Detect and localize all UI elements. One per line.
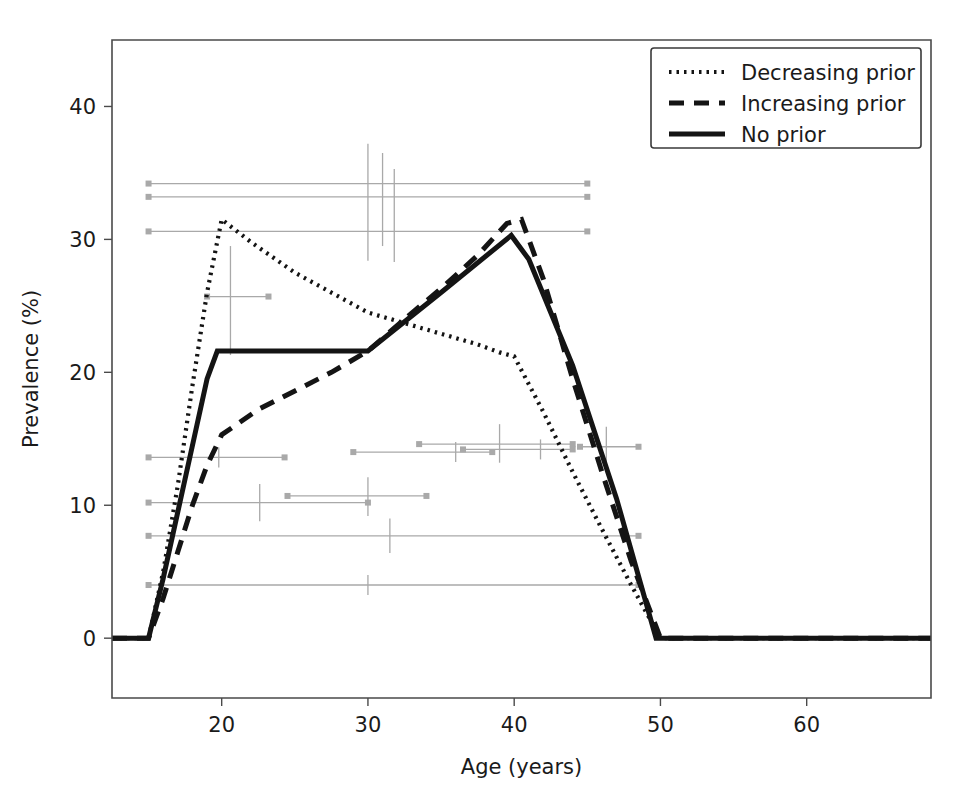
y-axis-label: Prevalence (%) [19, 290, 43, 448]
legend-label: Decreasing prior [741, 61, 915, 85]
marker-endpoint-cap [577, 444, 583, 450]
y-tick-label: 0 [83, 627, 96, 651]
x-tick-label: 40 [501, 713, 528, 737]
marker-endpoint-cap [265, 294, 271, 300]
marker-endpoint-cap [146, 533, 152, 539]
x-axis-label: Age (years) [461, 755, 582, 779]
marker-endpoint-cap [282, 454, 288, 460]
marker-endpoint-cap [570, 446, 576, 452]
y-tick-label: 20 [69, 361, 96, 385]
marker-endpoint-cap [416, 441, 422, 447]
x-tick-label: 60 [793, 713, 820, 737]
marker-endpoint-cap [146, 500, 152, 506]
marker-endpoint-cap [146, 181, 152, 187]
marker-endpoint-cap [146, 582, 152, 588]
y-tick-label: 30 [69, 228, 96, 252]
x-tick-label: 20 [208, 713, 235, 737]
marker-endpoint-cap [146, 454, 152, 460]
marker-endpoint-cap [285, 493, 291, 499]
marker-endpoint-cap [146, 194, 152, 200]
marker-endpoint-cap [584, 228, 590, 234]
marker-endpoint-cap [570, 441, 576, 447]
marker-endpoint-cap [636, 533, 642, 539]
marker-endpoint-cap [584, 194, 590, 200]
marker-endpoint-cap [584, 181, 590, 187]
prevalence-chart-figure: 2030405060010203040Age (years)Prevalence… [0, 0, 978, 797]
marker-endpoint-cap [636, 444, 642, 450]
y-tick-label: 40 [69, 95, 96, 119]
marker-endpoint-cap [423, 493, 429, 499]
marker-endpoint-cap [146, 228, 152, 234]
x-tick-label: 30 [355, 713, 382, 737]
legend-label: No prior [741, 123, 826, 147]
y-tick-label: 10 [69, 494, 96, 518]
marker-endpoint-cap [350, 449, 356, 455]
marker-endpoint-cap [460, 446, 466, 452]
x-tick-label: 50 [647, 713, 674, 737]
legend: Decreasing priorIncreasing priorNo prior [651, 48, 921, 148]
legend-label: Increasing prior [741, 92, 906, 116]
